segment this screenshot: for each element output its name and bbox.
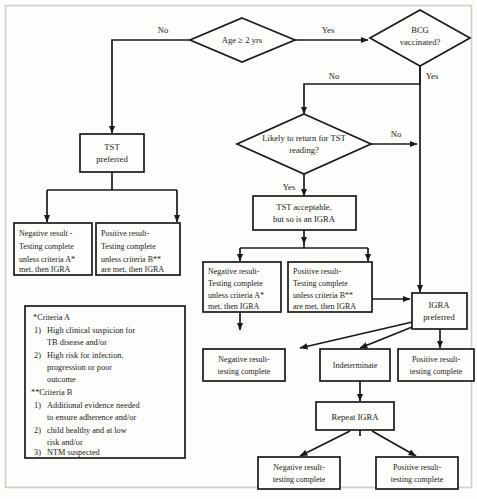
box-igra-positive-line-1: Positive result-: [412, 355, 461, 364]
criteria-a-item-1-line-2: TB disease and/or: [47, 338, 107, 347]
box-igra-indeterminate-line-1: Indeterminate: [333, 361, 378, 370]
edge-age-no: [112, 40, 190, 133]
box-tst-preferred-line-1: TST: [104, 142, 120, 152]
edge-label-tstreturn-yes: Yes: [283, 182, 296, 192]
decision-tst-return-label-2: reading?: [289, 145, 319, 155]
decision-bcg-label-1: BCG: [411, 25, 429, 35]
box-repeat-negative-line-2: testing complete: [273, 475, 326, 484]
box-igra-negative-line-2: testing complete: [218, 367, 271, 376]
criteria-b-item-2-line-1: child healthy and at low: [47, 426, 127, 435]
box-tst-positive-mid-line-2: Testing complete: [293, 279, 348, 288]
box-tst-positive-left-line-2: Testing complete: [101, 242, 156, 251]
box-tst-acceptable-line-1: TST acceptable,: [276, 202, 332, 212]
box-igra-preferred-line-1: IGRA: [428, 300, 450, 310]
box-repeat-positive-line-2: testing complete: [391, 475, 444, 484]
criteria-b-item-1-line-1: Additional evidence needed: [47, 401, 140, 410]
box-tst-preferred[interactable]: [80, 134, 144, 172]
box-tst-acceptable-line-2: but so is an IGRA: [273, 214, 336, 224]
criteria-a-item-2-line-2: progression or poor: [47, 363, 112, 372]
box-repeat-positive-line-1: Positive result-: [393, 463, 442, 472]
criteria-b-item-3-num: 3): [34, 448, 41, 457]
box-tst-positive-left-line-4: are met, then IGRA: [101, 265, 164, 274]
box-tst-negative-left-line-3: unless criteria A*: [19, 255, 75, 264]
criteria-b-item-1-num: 1): [34, 401, 41, 410]
box-tst-positive-left-line-3: unless criteria B**: [101, 255, 161, 264]
box-repeat-negative[interactable]: [258, 457, 340, 489]
edge-repeat-pos: [372, 431, 416, 456]
edge-label-bcg-no: No: [329, 71, 340, 81]
criteria-b-heading: **Criteria B: [31, 388, 73, 397]
box-tst-negative-left-line-1: Negative result -: [19, 229, 73, 238]
edge-bcg-no: [304, 66, 420, 114]
edge-repeat-neg: [300, 431, 350, 456]
flowchart-figure: Age ≥ 2 yrs BCG vaccinated? Likely to re…: [0, 0, 477, 499]
criteria-a-item-2-line-1: High risk for infection,: [47, 351, 124, 360]
criteria-legend: *Criteria A 1) High clinical suspicion f…: [25, 306, 185, 458]
criteria-b-item-3-line-1: NTM suspected: [47, 448, 101, 457]
box-tst-negative-mid-line-3: unless criteria A*: [208, 291, 264, 300]
decision-tst-return[interactable]: [237, 114, 371, 174]
box-tst-negative-mid-line-2: Testing complete: [208, 279, 263, 288]
box-igra-positive[interactable]: [398, 349, 474, 381]
box-igra-positive-line-2: testing complete: [410, 367, 463, 376]
criteria-a-item-2-num: 2): [34, 351, 41, 360]
criteria-b-item-1-line-2: to ensure adherence and/or: [47, 413, 136, 422]
box-tst-positive-mid-line-1: Positive result-: [293, 267, 342, 276]
criteria-a-item-2-line-3: outcome: [47, 375, 76, 384]
criteria-a-item-1-num: 1): [34, 326, 41, 335]
box-tst-preferred-line-2: preferred: [96, 154, 128, 164]
box-tst-negative-mid-line-4: met, then IGRA: [208, 302, 260, 311]
criteria-a-item-1-line-1: High clinical suspicion for: [47, 326, 135, 335]
edge-label-age-yes: Yes: [322, 25, 335, 35]
box-igra-negative-line-1: Negative result-: [218, 355, 270, 364]
flowchart-canvas: Age ≥ 2 yrs BCG vaccinated? Likely to re…: [0, 0, 477, 499]
box-igra-preferred-line-2: preferred: [423, 312, 455, 322]
box-tst-positive-mid-line-4: are met, then IGRA: [293, 302, 356, 311]
edge-label-age-no: No: [158, 25, 169, 35]
box-tst-positive-mid-line-3: unless criteria B**: [293, 291, 353, 300]
criteria-a-heading: *Criteria A: [33, 313, 70, 322]
box-igra-negative[interactable]: [203, 349, 285, 381]
edge-label-bcg-yes: Yes: [426, 71, 439, 81]
decision-tst-return-label-1: Likely to return for TST: [262, 133, 346, 143]
decision-bcg-label-2: vaccinated?: [400, 37, 441, 47]
decision-age-label: Age ≥ 2 yrs: [222, 35, 263, 45]
box-tst-negative-left-line-4: met, then IGRA: [19, 265, 71, 274]
box-tst-negative-left-line-2: Testing complete: [19, 242, 74, 251]
box-repeat-negative-line-1: Negative result-: [273, 463, 325, 472]
box-repeat-igra-line-1: Repeat IGRA: [331, 412, 379, 422]
box-repeat-positive[interactable]: [376, 457, 458, 489]
box-tst-positive-left-line-1: Positive result-: [101, 229, 150, 238]
criteria-b-item-2-line-2: risk and/or: [47, 438, 83, 447]
box-igra-preferred[interactable]: [412, 293, 467, 329]
edge-label-tstreturn-no: No: [391, 129, 402, 139]
edge-labels: No Yes No Yes No Yes: [158, 25, 439, 192]
criteria-b-item-2-num: 2): [34, 426, 41, 435]
box-tst-negative-mid-line-1: Negative result-: [208, 267, 260, 276]
